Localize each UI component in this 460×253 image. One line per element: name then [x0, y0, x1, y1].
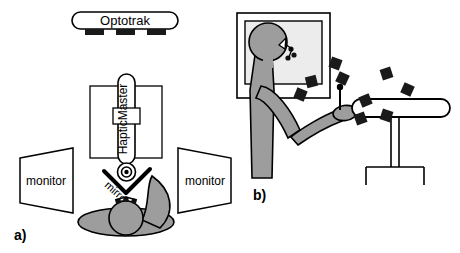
head-marker-side-2 [291, 52, 296, 57]
monitor-left-label: monitor [26, 174, 66, 188]
subject-torso [250, 55, 274, 178]
marker-square-3 [335, 71, 350, 86]
end-effector-center-dot [124, 170, 128, 174]
optotrak-camera-1 [85, 29, 104, 35]
panel-a: Optotrak HapticMaster mirr [14, 12, 231, 243]
setup-diagram: Optotrak HapticMaster mirr [0, 0, 460, 253]
monitor-right-label: monitor [185, 174, 225, 188]
marker-square-2 [380, 67, 394, 81]
haptic-master-assembly: HapticMaster [90, 74, 162, 164]
haptic-end-effector [118, 163, 136, 181]
subject-reaching-arm [142, 176, 170, 228]
optotrak-camera-3 [147, 29, 166, 35]
subject-head-overhead [109, 201, 143, 235]
panel-b-label: b) [253, 187, 266, 203]
subject-neck [263, 58, 273, 68]
monitor-right: monitor [178, 148, 231, 213]
optotrak-camera-2 [116, 29, 135, 35]
marker-square-9 [400, 82, 415, 97]
support-table [352, 99, 450, 185]
figure-container: Optotrak HapticMaster mirr [0, 0, 460, 253]
stylus-tip [337, 84, 343, 90]
optotrak-device: Optotrak [72, 12, 178, 35]
panel-b: b) [237, 13, 450, 203]
panel-a-label: a) [14, 227, 26, 243]
subject-overhead [78, 176, 174, 236]
haptic-master-label: HapticMaster [116, 84, 130, 155]
optotrak-label: Optotrak [100, 13, 150, 28]
monitor-left: monitor [20, 148, 73, 213]
